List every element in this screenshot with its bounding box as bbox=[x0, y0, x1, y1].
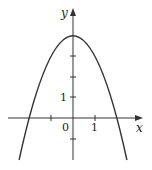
x-axis-label: x bbox=[136, 121, 143, 135]
y-axis-label: y bbox=[60, 6, 68, 20]
y-axis bbox=[70, 8, 76, 160]
x-tick-label-1: 1 bbox=[91, 121, 98, 134]
parabola-chart: y x 0 1 1 bbox=[0, 0, 152, 170]
y-axis-arrow-icon bbox=[70, 8, 76, 16]
y-tick-label-1: 1 bbox=[60, 91, 67, 104]
origin-label: 0 bbox=[62, 121, 69, 134]
